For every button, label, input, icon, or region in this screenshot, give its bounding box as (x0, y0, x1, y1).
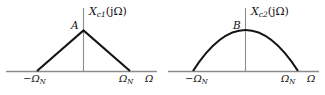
axis-label-omega: Ω (307, 74, 315, 84)
axis-label-omega: Ω (145, 74, 153, 84)
tick-subscript: N (202, 78, 208, 86)
tick-subscript: N (289, 78, 295, 86)
signal-name: X (89, 5, 97, 18)
tick-label-positive-omega-n: ΩN (281, 74, 295, 86)
signal-subscript: c2 (259, 10, 268, 19)
tick-label-negative-omega-n: −ΩN (23, 74, 46, 86)
tick-symbol: −Ω (23, 73, 40, 84)
peak-label-b: B (233, 20, 241, 31)
signal-label-xc2: Xc2(jΩ) (251, 6, 289, 19)
signal-label-xc1: Xc1(jΩ) (89, 6, 127, 19)
tick-subscript: N (40, 78, 46, 86)
tick-label-positive-omega-n: ΩN (119, 74, 133, 86)
peak-label-a: A (71, 20, 79, 31)
signal-subscript: c1 (97, 10, 106, 19)
tick-symbol: −Ω (185, 73, 202, 84)
signal-argument: (jΩ) (268, 5, 289, 18)
tick-label-negative-omega-n: −ΩN (185, 74, 208, 86)
spectra-figure: Xc1(jΩ) A −ΩN ΩN Ω Xc2(jΩ) B −ΩN ΩN (0, 0, 325, 95)
signal-argument: (jΩ) (106, 5, 127, 18)
tick-subscript: N (127, 78, 133, 86)
plot-xc2: Xc2(jΩ) B −ΩN ΩN Ω (162, 0, 325, 95)
plot-xc1: Xc1(jΩ) A −ΩN ΩN Ω (0, 0, 163, 95)
signal-name: X (251, 5, 259, 18)
